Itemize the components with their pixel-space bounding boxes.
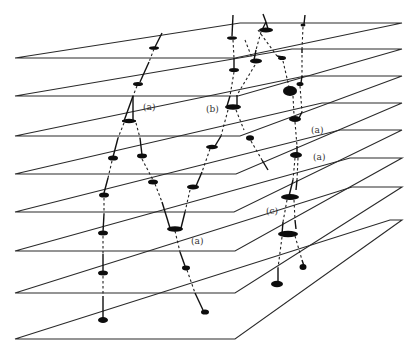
plane-8 xyxy=(15,220,402,339)
diagram-canvas: (a)(b)(a)(a)(c)(a) xyxy=(0,0,416,356)
label-c: (c) xyxy=(266,206,278,216)
label-a-3: (a) xyxy=(313,152,325,162)
label-a-2: (a) xyxy=(311,125,323,135)
label-a-4: (a) xyxy=(191,236,203,246)
label-b: (b) xyxy=(206,104,219,114)
plane-6 xyxy=(15,158,402,251)
plane-2 xyxy=(15,49,402,96)
planes-diagram-svg: (a)(b)(a)(a)(c)(a) xyxy=(0,0,416,356)
trajectory-left xyxy=(98,33,170,323)
plane-5 xyxy=(15,130,402,212)
label-a-1: (a) xyxy=(143,102,155,112)
planes-group xyxy=(15,23,402,339)
plane-1 xyxy=(15,23,402,58)
